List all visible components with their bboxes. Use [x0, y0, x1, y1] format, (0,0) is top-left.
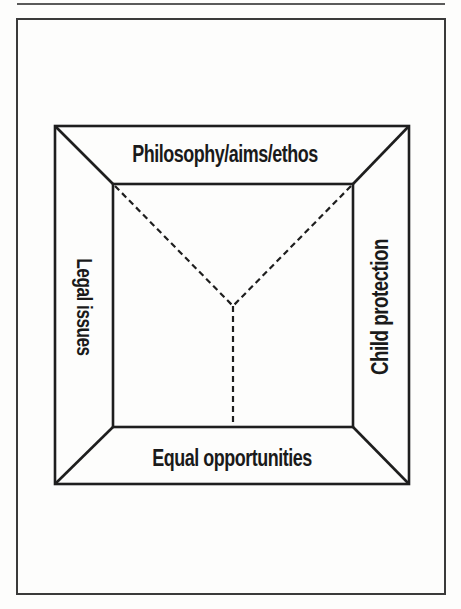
label-philosophy-aims-ethos: Philosophy/aims/ethos: [132, 141, 318, 168]
connector-top-right: [353, 126, 409, 184]
label-legal-issues: Legal issues: [71, 258, 97, 355]
printed-page: Philosophy/aims/ethos Legal issues Child…: [0, 0, 461, 609]
dashed-line-right: [233, 186, 351, 306]
connector-top-left: [55, 126, 113, 184]
label-child-protection: Child protection: [366, 239, 394, 375]
connector-bottom-right: [353, 427, 409, 484]
label-equal-opportunities: Equal opportunities: [152, 445, 312, 472]
connector-bottom-left: [55, 427, 113, 484]
dashed-line-left: [115, 186, 233, 306]
